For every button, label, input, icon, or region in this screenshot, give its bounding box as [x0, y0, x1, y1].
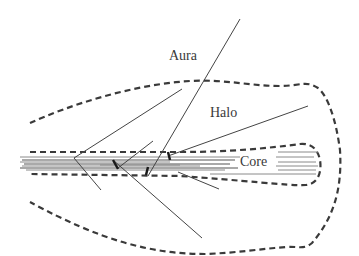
core-label: Core [240, 154, 267, 169]
aura-label: Aura [169, 48, 198, 63]
aura-halo-core-diagram: Aura Halo Core [0, 0, 359, 256]
halo-boundary [30, 81, 340, 254]
halo-label: Halo [210, 105, 237, 120]
